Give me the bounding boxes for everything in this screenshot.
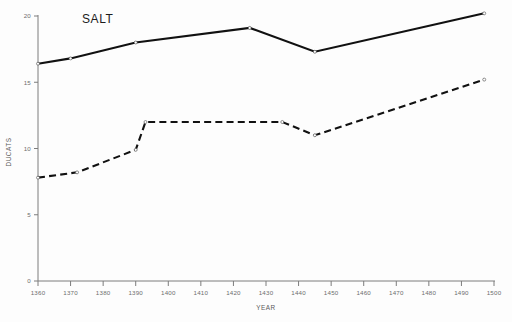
- data-point-marker: [134, 41, 137, 44]
- y-axis: 05101520: [24, 12, 38, 284]
- data-point-marker: [483, 12, 486, 15]
- x-axis-title: YEAR: [256, 304, 275, 311]
- series-line-lower-dashed: [38, 80, 484, 178]
- data-point-marker: [37, 176, 40, 179]
- x-tick-label: 1410: [194, 289, 209, 296]
- x-tick-label: 1390: [128, 289, 143, 296]
- y-tick-label: 5: [27, 211, 31, 218]
- x-tick-label: 1480: [422, 289, 437, 296]
- chart-title: SALT: [82, 12, 114, 26]
- x-tick-label: 1420: [226, 289, 241, 296]
- data-series-group: [38, 13, 484, 177]
- data-point-marker: [313, 134, 316, 137]
- data-point-marker: [483, 78, 486, 81]
- x-tick-label: 1400: [161, 289, 176, 296]
- data-point-marker: [281, 121, 284, 124]
- x-tick-label: 1370: [63, 289, 78, 296]
- x-tick-label: 1470: [389, 289, 404, 296]
- data-point-marker: [69, 57, 72, 60]
- data-point-marker: [76, 171, 79, 174]
- data-point-markers: [37, 12, 486, 179]
- x-tick-label: 1430: [259, 289, 274, 296]
- y-axis-title: DUCATS: [5, 138, 12, 167]
- data-point-marker: [313, 50, 316, 53]
- chart-canvas: 05101520 1360137013801390140014101420143…: [0, 0, 512, 322]
- x-tick-label: 1490: [454, 289, 469, 296]
- x-tick-label: 1460: [356, 289, 371, 296]
- x-tick-label: 1380: [96, 289, 111, 296]
- y-tick-label: 0: [27, 277, 31, 284]
- data-point-marker: [37, 62, 40, 65]
- x-tick-label: 1360: [31, 289, 46, 296]
- data-point-marker: [134, 148, 137, 151]
- x-tick-label: 1450: [324, 289, 339, 296]
- y-tick-label: 15: [24, 79, 32, 86]
- y-tick-label: 10: [24, 145, 32, 152]
- x-tick-label: 1440: [291, 289, 306, 296]
- data-point-marker: [248, 26, 251, 29]
- salt-price-chart: 05101520 1360137013801390140014101420143…: [0, 0, 512, 322]
- y-tick-label: 20: [24, 12, 32, 19]
- x-axis: 1360137013801390140014101420143014401450…: [31, 281, 502, 296]
- x-tick-label: 1500: [487, 289, 502, 296]
- data-point-marker: [144, 121, 147, 124]
